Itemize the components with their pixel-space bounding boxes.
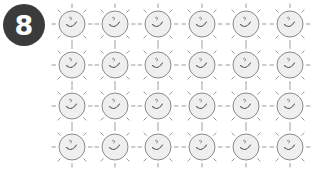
smiling-sun-icon <box>268 125 312 169</box>
smiling-sun-icon <box>224 2 268 46</box>
smiling-sun-icon <box>93 84 137 128</box>
smiling-sun-icon <box>93 2 137 46</box>
smiling-sun-icon <box>50 43 94 87</box>
smiling-sun-icon <box>50 84 94 128</box>
smiling-sun-icon <box>268 84 312 128</box>
smiling-sun-icon <box>93 43 137 87</box>
smiling-sun-icon <box>93 125 137 169</box>
smiling-sun-icon <box>136 84 180 128</box>
smiling-sun-icon <box>224 125 268 169</box>
smiling-sun-icon <box>180 2 224 46</box>
smiling-sun-icon <box>136 125 180 169</box>
smiling-sun-icon <box>268 43 312 87</box>
smiling-sun-icon <box>50 2 94 46</box>
smiling-sun-icon <box>224 84 268 128</box>
smiling-sun-icon <box>180 125 224 169</box>
smiling-sun-icon <box>136 2 180 46</box>
smiling-sun-icon <box>50 125 94 169</box>
smiling-sun-icon <box>180 84 224 128</box>
smiling-sun-icon <box>180 43 224 87</box>
smiling-sun-icon <box>136 43 180 87</box>
sun-grid <box>0 0 317 179</box>
smiling-sun-icon <box>268 2 312 46</box>
smiling-sun-icon <box>224 43 268 87</box>
